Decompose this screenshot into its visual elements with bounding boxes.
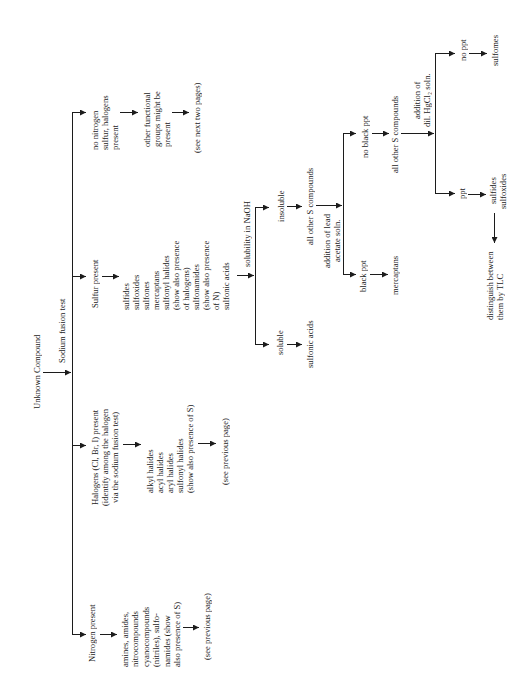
- text-line: no black ppt: [360, 112, 370, 162]
- list-item: (show also presence: [201, 220, 211, 310]
- text-line: black ppt: [358, 256, 368, 296]
- text-line: solubility in NaOH: [242, 190, 252, 267]
- no-element-reference-note: (see next two pages): [192, 70, 202, 153]
- text-line: ppt: [457, 179, 467, 209]
- text-line: no nitrogen: [90, 80, 100, 150]
- text-line: sulfides: [488, 171, 498, 211]
- list-item: (show also presence of S): [185, 390, 195, 493]
- text-line: sulfonic acids: [305, 314, 315, 374]
- nitrogen-compound-list: amines, amides, nitrocompounds cyanocomp…: [120, 590, 180, 667]
- list-item: of halogens): [181, 220, 191, 310]
- list-item: sulfonyl halides: [175, 390, 185, 493]
- text-line: sulfomes: [490, 30, 500, 70]
- list-item: (nitriles), sulfo-: [151, 590, 161, 667]
- halogen-reference-note: (see previous page): [220, 412, 230, 492]
- text-line: Sulfur present: [90, 240, 100, 308]
- text-line: sulfur, halogens: [100, 80, 110, 150]
- text-line: addition of lead: [322, 211, 332, 271]
- soluble-node: soluble: [275, 323, 285, 363]
- list-item: namides (show: [162, 590, 172, 667]
- text-line: (see previous page): [220, 412, 230, 492]
- list-item: cyanocompounds: [141, 590, 151, 667]
- hgcl2-test-label: addition of dil. HgCl₂ soln.: [412, 65, 432, 135]
- list-item: of N): [211, 220, 221, 310]
- sulfur-condition-node: Sulfur present: [90, 240, 100, 308]
- text-line: (see previous page): [202, 587, 212, 667]
- text-line: addition of: [412, 65, 422, 135]
- sulfones-result: sulfomes: [490, 30, 500, 70]
- text-line: groups might be: [152, 70, 162, 147]
- list-item: sulfonic acids: [221, 220, 231, 310]
- text-line: other functional: [142, 70, 152, 147]
- list-item: sulfones: [141, 220, 151, 310]
- list-item: mercaptans: [151, 220, 161, 310]
- text-line: (identify among the halogen: [100, 407, 110, 507]
- text-line: all other S compounds: [390, 94, 400, 174]
- black-ppt-node: black ppt: [358, 256, 368, 296]
- text-line: them by TLC: [495, 245, 505, 320]
- text-line: Unknown Compound: [32, 322, 42, 422]
- mercaptans-result: mercaptans: [390, 253, 400, 297]
- halogen-condition-node: Halogens (Cl, Br, I) present (identify a…: [90, 407, 120, 507]
- list-item: sulfides: [121, 220, 131, 310]
- lead-acetate-test-label: addition of lead acetate soln.: [322, 211, 342, 271]
- no-element-condition-node: no nitrogen sulfur, halogens present: [90, 80, 120, 150]
- other-s-compounds-node: all other S compounds: [305, 166, 315, 246]
- text-line: present: [162, 70, 172, 147]
- list-item: (show also presence: [171, 220, 181, 310]
- text-line: mercaptans: [390, 253, 400, 297]
- sulfur-compound-list: sulfides sulfoxides sulfones mercaptans …: [121, 220, 231, 310]
- naoh-test-label: solubility in NaOH: [242, 190, 252, 267]
- text-line: Halogens (Cl, Br, I) present: [90, 407, 100, 507]
- list-item: amines, amides,: [120, 590, 130, 667]
- nitrogen-condition-node: Nitrogen present: [87, 601, 97, 665]
- text-line: via the sodium fusion test): [110, 407, 120, 507]
- connector-layer: [0, 0, 532, 693]
- sulfides-sulfoxides-result: sulfides sulfoxides: [488, 171, 508, 211]
- list-item: aryl halides: [165, 390, 175, 493]
- text-line: dil. HgCl₂ soln.: [422, 65, 432, 135]
- list-item: alkyl halides: [145, 390, 155, 493]
- text-line: distinguish between: [485, 245, 495, 320]
- root-test-label: Sodium fusion test: [57, 280, 67, 363]
- ppt-node: ppt: [457, 179, 467, 209]
- insoluble-node: insoluble: [276, 186, 286, 226]
- text-line: (see next two pages): [192, 70, 202, 153]
- halide-compound-list: alkyl halides acyl halides aryl halides …: [145, 390, 195, 493]
- list-item: also presence of S): [172, 590, 182, 667]
- text-line: acetate soln.: [332, 211, 342, 271]
- tlc-note: distinguish between them by TLC: [485, 245, 505, 320]
- flowchart-canvas: Unknown Compound Sodium fusion test no n…: [0, 0, 532, 693]
- text-line: no ppt: [458, 35, 468, 65]
- list-item: nitrocompounds: [130, 590, 140, 667]
- list-item: acyl halides: [155, 390, 165, 493]
- nitrogen-reference-note: (see previous page): [202, 587, 212, 667]
- text-line: Sodium fusion test: [57, 280, 67, 363]
- other-s-compounds-node-2: all other S compounds: [390, 94, 400, 174]
- text-line: soluble: [275, 323, 285, 363]
- text-line: insoluble: [276, 186, 286, 226]
- no-black-ppt-node: no black ppt: [360, 112, 370, 162]
- text-line: present: [110, 80, 120, 150]
- list-item: sulfonamides: [191, 220, 201, 310]
- text-line: sulfoxides: [498, 171, 508, 211]
- sulfonic-acids-result: sulfonic acids: [305, 314, 315, 374]
- text-line: Nitrogen present: [87, 601, 97, 665]
- list-item: sulfoxides: [131, 220, 141, 310]
- list-item: sulfonyl halides: [161, 220, 171, 310]
- no-ppt-node: no ppt: [458, 35, 468, 65]
- no-element-result-node: other functional groups might be present: [142, 70, 172, 147]
- text-line: all other S compounds: [305, 166, 315, 246]
- root-node-unknown-compound: Unknown Compound: [32, 322, 42, 422]
